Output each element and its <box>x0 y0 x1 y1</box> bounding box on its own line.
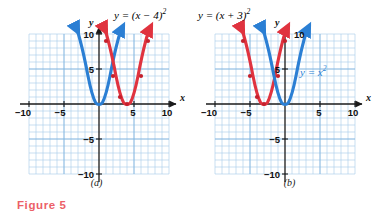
x-tick-neg10-a: −10 <box>15 107 31 118</box>
y-axis-label-a: y <box>88 17 94 28</box>
y-tick-10-a: 10 <box>83 29 94 40</box>
panel-caption-a: (a) <box>0 177 193 188</box>
x-axis-label-a: x <box>179 92 185 103</box>
equation-label-red-b: y = (x + 3)2 <box>198 7 250 21</box>
x-tick-10-b: 10 <box>348 107 359 118</box>
y-tick-5-b: 5 <box>275 64 281 75</box>
y-tick-neg5-a: −5 <box>83 134 95 145</box>
x-tick-10-a: 10 <box>162 107 173 118</box>
coordinate-plane-a: −10 −5 5 10 10 5 −5 −10 x y <box>0 0 193 196</box>
equation-label-red-a: y = (x − 4)2 <box>114 7 166 21</box>
y-tick-neg5-b: −5 <box>269 134 281 145</box>
equation-label-blue-b: y = x2 <box>300 64 326 78</box>
coordinate-plane-b: −10 −5 5 10 10 5 −5 −10 x y <box>193 0 386 196</box>
figure-5: −10 −5 5 10 10 5 −5 −10 x y y = (x − 4)2… <box>0 0 387 220</box>
graph-panel-a: −10 −5 5 10 10 5 −5 −10 x y y = (x − 4)2… <box>0 0 193 196</box>
x-tick-5-b: 5 <box>316 107 322 118</box>
x-tick-5-a: 5 <box>130 107 136 118</box>
y-tick-5-a: 5 <box>89 64 95 75</box>
y-axis-label-b: y <box>274 17 280 28</box>
x-tick-neg5-a: −5 <box>55 107 67 118</box>
figure-number-label: Figure 5 <box>17 199 67 211</box>
graph-panel-b: −10 −5 5 10 10 5 −5 −10 x y y = (x + 3)2… <box>193 0 386 196</box>
x-axis-label-b: x <box>365 92 371 103</box>
panel-caption-b: (b) <box>193 177 386 188</box>
x-tick-neg5-b: −5 <box>241 107 253 118</box>
x-tick-neg10-b: −10 <box>201 107 217 118</box>
y-tick-10-b: 10 <box>294 29 305 40</box>
